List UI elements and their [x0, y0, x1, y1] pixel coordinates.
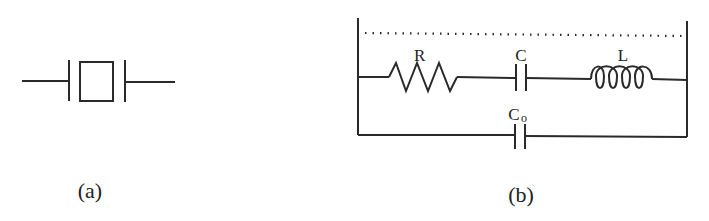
wire — [525, 136, 687, 137]
wire — [652, 79, 687, 80]
equivalent-circuit — [358, 18, 687, 149]
dotted-boundary — [365, 33, 684, 36]
resistor-icon — [389, 63, 457, 91]
inductor-icon — [591, 66, 652, 88]
crystal-body — [80, 62, 113, 101]
caption-a: (a) — [78, 178, 102, 203]
capacitor-label: C — [515, 46, 526, 65]
wire — [457, 77, 516, 78]
wire — [526, 78, 591, 79]
inductor-label: L — [618, 46, 628, 65]
figure-canvas: R C L C o (a) (b) — [0, 0, 709, 221]
shunt-capacitor-label: C — [508, 105, 519, 124]
caption-b: (b) — [508, 182, 534, 207]
resistor-label: R — [414, 46, 426, 65]
crystal-symbol — [22, 60, 175, 102]
shunt-capacitor-subscript: o — [521, 111, 527, 125]
